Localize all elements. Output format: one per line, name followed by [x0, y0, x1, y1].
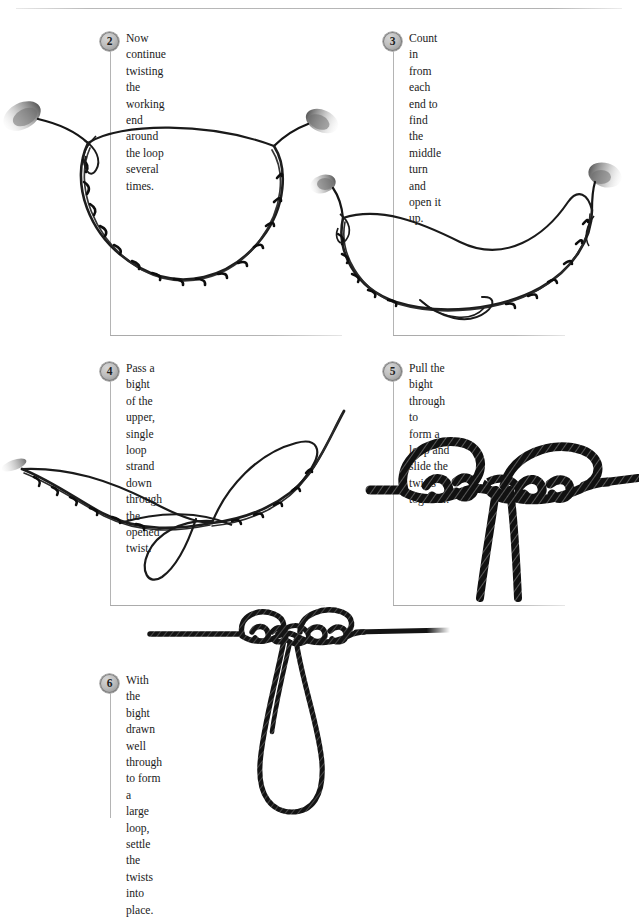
- rope-frayed-end-right: [585, 158, 625, 191]
- step-3-number-badge: 3: [383, 32, 402, 51]
- step-4-bracket: [110, 381, 325, 606]
- step-6-bracket: [110, 693, 111, 818]
- step-6-text: With the bight drawn well through to for…: [126, 673, 162, 919]
- step-2-number-badge: 2: [100, 32, 119, 51]
- step-5-number-badge: 5: [383, 362, 402, 381]
- top-divider-rule: [16, 8, 622, 9]
- rope-frayed-end-left: [0, 456, 28, 474]
- rope-frayed-end-left: [0, 95, 46, 137]
- step-3-bracket: [393, 51, 565, 336]
- step-5-bracket: [393, 381, 565, 606]
- step-6-illustration: [150, 612, 490, 818]
- step-2-bracket: [110, 51, 342, 336]
- step-4-number-badge: 4: [100, 362, 119, 381]
- step-6-number-badge: 6: [100, 674, 119, 693]
